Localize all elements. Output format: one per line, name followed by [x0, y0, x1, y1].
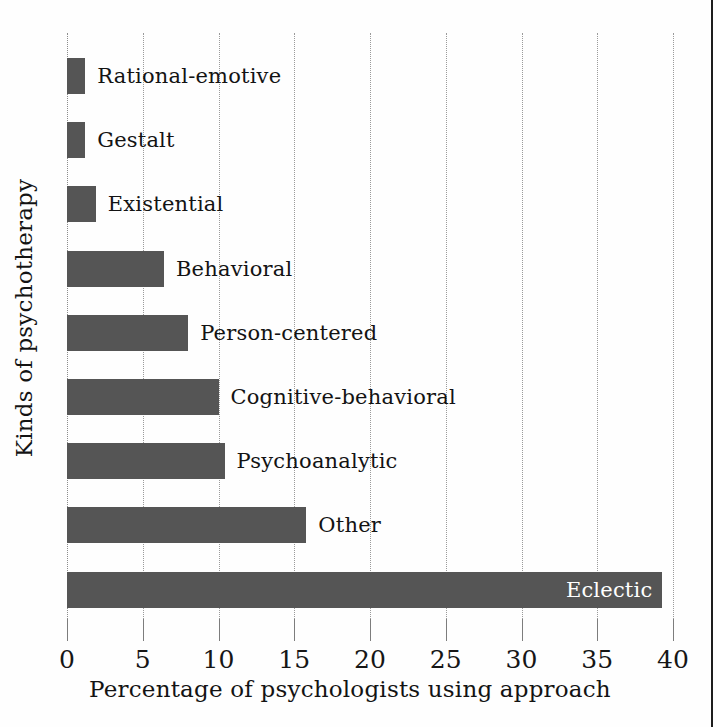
bar-row: Rational-emotive [67, 58, 673, 94]
bar-row: Cognitive-behavioral [67, 379, 673, 415]
bar-row: Person-centered [67, 315, 673, 351]
bar-label: Psychoanalytic [237, 449, 398, 473]
bar [67, 58, 85, 94]
bar-label: Cognitive-behavioral [231, 385, 456, 409]
x-tick-label-10: 10 [203, 645, 235, 674]
bar-row: Psychoanalytic [67, 443, 673, 479]
bar [67, 315, 188, 351]
bar-row: Other [67, 507, 673, 543]
x-tick-15 [294, 619, 296, 641]
x-tick-label-40: 40 [657, 645, 689, 674]
x-tick-label-30: 30 [506, 645, 538, 674]
bar [67, 122, 85, 158]
bar-label: Existential [108, 192, 224, 216]
gridline-40 [673, 33, 675, 619]
bar-label: Gestalt [97, 128, 175, 152]
x-tick-0 [67, 619, 69, 641]
x-axis: 0510152025303540 [67, 619, 673, 620]
x-tick-label-20: 20 [354, 645, 386, 674]
bar-row: Behavioral [67, 251, 673, 287]
bar-row: Eclectic [67, 572, 673, 608]
chart-figure: Rational-emotiveGestaltExistentialBehavi… [0, 0, 717, 727]
bar [67, 443, 225, 479]
bar [67, 507, 306, 543]
x-tick-35 [597, 619, 599, 641]
bar [67, 186, 96, 222]
x-tick-label-0: 0 [59, 645, 75, 674]
bar-row: Gestalt [67, 122, 673, 158]
bar-label: Behavioral [176, 257, 292, 281]
plot-area: Rational-emotiveGestaltExistentialBehavi… [67, 33, 673, 619]
x-tick-label-15: 15 [278, 645, 310, 674]
x-axis-title: Percentage of psychologists using approa… [0, 676, 700, 702]
x-tick-20 [370, 619, 372, 641]
bar-label: Other [318, 513, 381, 537]
x-tick-25 [446, 619, 448, 641]
x-tick-10 [219, 619, 221, 641]
x-tick-40 [673, 619, 675, 641]
y-axis-title: Kinds of psychotherapy [11, 128, 37, 508]
bar-row: Existential [67, 186, 673, 222]
bar-label: Rational-emotive [97, 64, 281, 88]
x-tick-5 [143, 619, 145, 641]
x-tick-label-25: 25 [430, 645, 462, 674]
bar-label: Eclectic [566, 578, 653, 602]
x-tick-label-5: 5 [135, 645, 151, 674]
bar-label: Person-centered [200, 321, 377, 345]
x-tick-label-35: 35 [581, 645, 613, 674]
bar [67, 251, 164, 287]
figure-right-border [711, 0, 713, 727]
x-tick-30 [522, 619, 524, 641]
bar [67, 379, 219, 415]
